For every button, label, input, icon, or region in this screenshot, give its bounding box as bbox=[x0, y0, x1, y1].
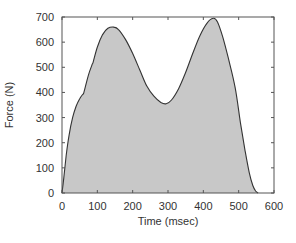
y-tick-label: 400 bbox=[36, 86, 54, 98]
x-tick-label: 400 bbox=[194, 200, 212, 212]
y-tick-label: 700 bbox=[36, 11, 54, 23]
x-axis-label: Time (msec) bbox=[138, 215, 199, 227]
y-tick-label: 200 bbox=[36, 137, 54, 149]
y-axis-label: Force (N) bbox=[3, 82, 15, 128]
force-area bbox=[62, 18, 258, 193]
x-tick-label: 200 bbox=[123, 200, 141, 212]
x-tick-label: 100 bbox=[88, 200, 106, 212]
y-tick-label: 300 bbox=[36, 112, 54, 124]
x-tick-label: 300 bbox=[159, 200, 177, 212]
y-tick-label: 500 bbox=[36, 61, 54, 73]
y-tick-label: 100 bbox=[36, 162, 54, 174]
x-tick-label: 600 bbox=[265, 200, 283, 212]
x-tick-label: 0 bbox=[59, 200, 65, 212]
x-tick-label: 500 bbox=[229, 200, 247, 212]
force-time-chart: 0100200300400500600010020030040050060070… bbox=[0, 0, 296, 243]
y-tick-label: 600 bbox=[36, 36, 54, 48]
area-fill bbox=[62, 18, 258, 193]
y-tick-label: 0 bbox=[48, 187, 54, 199]
